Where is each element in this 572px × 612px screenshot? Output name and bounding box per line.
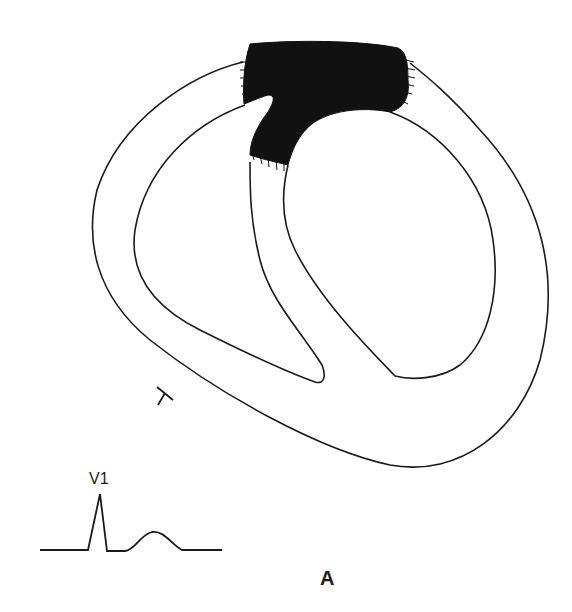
heart-cross-section-diagram [0, 0, 572, 612]
shaded-infarct-region [240, 41, 415, 171]
ecg-lead-label: V1 [89, 470, 109, 488]
panel-label: A [320, 567, 334, 590]
right-ventricle-cavity [134, 105, 324, 383]
outer-ventricle-wall [92, 62, 548, 467]
ecg-trace-v1 [40, 494, 222, 551]
t-marker-icon [157, 387, 173, 405]
left-ventricle-cavity [284, 112, 496, 378]
